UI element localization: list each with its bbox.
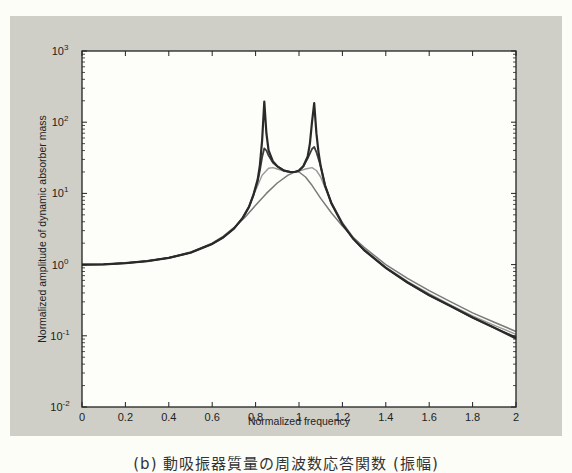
- y-axis-title: Normalized amplitude of dynamic absorber…: [36, 115, 48, 343]
- x-tick-label: 2: [513, 411, 519, 423]
- x-tick-label: 0.6: [205, 411, 220, 423]
- x-tick-label: 1.4: [378, 411, 393, 423]
- x-tick-label: 0: [79, 411, 85, 423]
- x-tick-label: 0.4: [161, 411, 176, 423]
- x-tick-label: 0.2: [118, 411, 133, 423]
- y-tick-label: 100: [52, 257, 69, 271]
- x-tick-label: 1.6: [422, 411, 437, 423]
- y-tick-label: 103: [52, 43, 69, 57]
- figure-caption: (b) 動吸振器質量の周波数応答関数 (振幅): [0, 452, 572, 473]
- plot-area: [82, 51, 516, 407]
- y-tick-label: 101: [52, 185, 69, 199]
- y-tick-label: 102: [52, 114, 69, 128]
- x-axis-title: Normalized frequency: [248, 415, 351, 427]
- y-tick-label: 10-1: [50, 328, 70, 342]
- x-tick-label: 1.8: [465, 411, 480, 423]
- y-tick-label: 10-2: [50, 399, 70, 413]
